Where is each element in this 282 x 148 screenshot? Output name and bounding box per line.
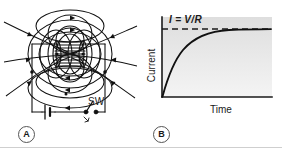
panel-a-circuit-diagram: SW A [0, 0, 141, 148]
switch-label: SW [88, 96, 104, 107]
switch-motion-tick-1 [84, 117, 88, 121]
battery-symbol [42, 105, 55, 119]
x-axis-label: Time [193, 104, 249, 115]
y-axis-label: Current [146, 38, 157, 94]
figure-container: SW A I = V/R Current [0, 0, 282, 148]
switch-terminal-right [94, 110, 98, 114]
panel-a-tag: A [18, 126, 35, 143]
magnetic-field-lines-inner [39, 15, 101, 93]
panel-b-current-time-chart: I = V/R Current Time B [141, 0, 282, 148]
panel-b-tag: B [153, 126, 170, 143]
switch-motion-tick-2 [85, 121, 88, 122]
asymptote-annotation-label: I = V/R [169, 14, 202, 25]
circuit-field-svg [0, 0, 141, 148]
switch-motion-tick-3 [88, 118, 89, 121]
